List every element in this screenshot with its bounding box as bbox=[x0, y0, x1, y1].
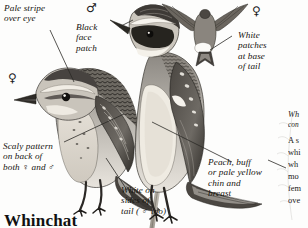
right-column-line-5: wh bbox=[288, 160, 308, 170]
right-column-line-3: A s bbox=[288, 136, 308, 146]
right-column-line-6: mo bbox=[288, 172, 308, 182]
label-scaly-pattern-on-back: Scaly pattern on back of both ♀ and ♂ bbox=[3, 141, 55, 172]
right-column-line-4: whi bbox=[288, 148, 308, 158]
female-symbol-perched: ♀ bbox=[8, 72, 17, 84]
label-white-on-sides-of-tail: White on sides of tail ( ♂ too) bbox=[121, 185, 166, 216]
right-column-line-1: Wh bbox=[288, 110, 308, 120]
right-column-line-2: con bbox=[288, 120, 308, 130]
label-white-patches-at-base-of-tail: White patches at base of tail bbox=[238, 30, 267, 72]
right-column-line-7: fem bbox=[288, 184, 308, 194]
male-symbol-perched: ♂ bbox=[86, 2, 97, 14]
label-peach-buff-chin-and-breast: Peach, buff or pale yellow chin and brea… bbox=[208, 157, 262, 199]
label-pale-stripe-over-eye: Pale stripe over eye bbox=[4, 3, 45, 24]
species-heading: Whinchat bbox=[4, 212, 77, 228]
field-guide-plate: Pale stripe over eye Black face patch Wh… bbox=[0, 0, 308, 228]
label-black-face-patch: Black face patch bbox=[76, 22, 97, 53]
female-symbol-flight: ♀ bbox=[252, 5, 261, 17]
right-column-line-8: ove bbox=[288, 196, 308, 206]
